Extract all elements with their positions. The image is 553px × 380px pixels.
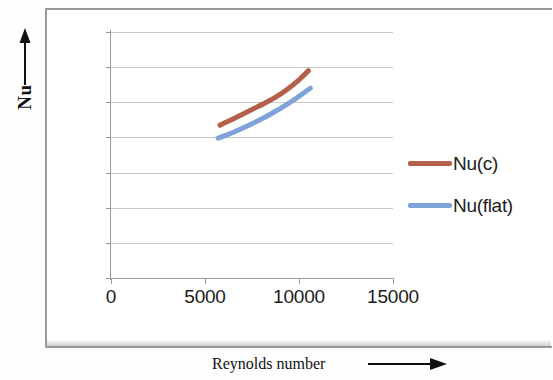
y-tick-30 [106, 173, 111, 174]
x-tick-10000 [299, 278, 300, 284]
gridline-y-50 [111, 102, 393, 103]
gridline-y-30 [111, 173, 393, 174]
y-tick-20 [106, 208, 111, 209]
y-tick-70 [106, 32, 111, 33]
gridline-y-10 [111, 243, 393, 244]
legend: Nu(c) Nu(flat) [408, 142, 548, 226]
figure-container: 010203040506070 050001000015000 Nu(c) Nu… [0, 0, 553, 380]
gridline-y-40 [111, 137, 393, 138]
legend-label-nu-c: Nu(c) [452, 154, 498, 173]
x-tick-label-15000: 15000 [348, 287, 438, 306]
y-tick-50 [106, 102, 111, 103]
x-axis: 050001000015000 [111, 278, 394, 279]
arrow-up-icon [18, 28, 32, 86]
gridline-y-70 [111, 32, 393, 33]
y-tick-10 [106, 243, 111, 244]
x-tick-label-10000: 10000 [254, 287, 344, 306]
y-tick-60 [106, 67, 111, 68]
legend-item-nu-c[interactable]: Nu(c) [408, 142, 548, 184]
x-tick-label-0: 0 [66, 287, 156, 306]
legend-swatch-nu-c [408, 161, 452, 166]
legend-label-nu-flat: Nu(flat) [452, 196, 513, 215]
x-axis-title: Reynolds number [212, 355, 325, 373]
x-tick-15000 [393, 278, 394, 284]
scan-shadow [47, 340, 551, 347]
gridline-y-20 [111, 208, 393, 209]
plot-area [111, 32, 393, 278]
legend-item-nu-flat[interactable]: Nu(flat) [408, 184, 548, 226]
y-tick-40 [106, 137, 111, 138]
x-tick-5000 [205, 278, 206, 284]
y-axis-title: Nu [14, 80, 36, 114]
gridline-y-60 [111, 67, 393, 68]
arrow-right-icon [368, 356, 448, 372]
x-tick-label-5000: 5000 [160, 287, 250, 306]
y-axis: 010203040506070 [110, 30, 111, 280]
legend-swatch-nu-flat [408, 203, 452, 208]
x-tick-0 [111, 278, 112, 284]
